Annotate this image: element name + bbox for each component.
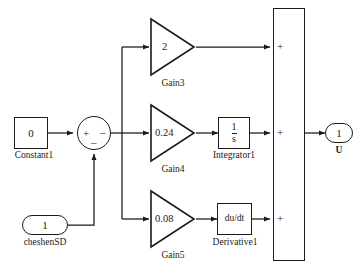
integrator-block-label: Integrator1	[198, 151, 270, 161]
gain3-block-label: Gain3	[138, 79, 208, 89]
sum-tall-sign-2: +	[277, 127, 283, 138]
gain4-block-label: Gain4	[138, 165, 208, 175]
gain3-block[interactable]	[149, 17, 196, 77]
constant-block[interactable]: 0	[14, 117, 48, 149]
sum-sign-bottom: –	[91, 137, 97, 148]
gain3-triangle-icon	[149, 17, 196, 77]
sum-tall-sign-3: +	[277, 213, 283, 224]
integrator-denominator: s	[232, 133, 237, 145]
sum-tall-sign-1: +	[277, 41, 283, 52]
integrator-block[interactable]: 1 s	[218, 117, 250, 149]
gain5-value: 0.08	[155, 214, 173, 225]
derivative-block-label: Derivative1	[198, 238, 272, 248]
integrator-numerator: 1	[232, 122, 237, 133]
outport-block[interactable]: 1	[325, 123, 353, 143]
sum-sign-left: +	[83, 128, 89, 139]
derivative-expression: du/dt	[225, 214, 245, 224]
gain5-block-label: Gain5	[138, 251, 208, 261]
sum-sign-right: –	[100, 127, 106, 138]
derivative-block[interactable]: du/dt	[217, 203, 252, 235]
constant-block-label: Constant1	[0, 151, 74, 161]
integrator-transfer-function: 1 s	[232, 122, 237, 144]
inport-value: 1	[42, 220, 48, 231]
outport-block-label: U	[313, 146, 357, 156]
inport-block[interactable]: 1	[22, 215, 68, 235]
outport-value: 1	[336, 128, 342, 139]
inport-block-label: cheshenSD	[5, 238, 85, 248]
gain3-value: 2	[162, 42, 167, 53]
gain4-value: 0.24	[155, 128, 173, 139]
constant-value: 0	[28, 128, 34, 139]
block-diagram-canvas: 0 Constant1 + – – 1 cheshenSD 2 Gain3 0.…	[0, 0, 357, 274]
